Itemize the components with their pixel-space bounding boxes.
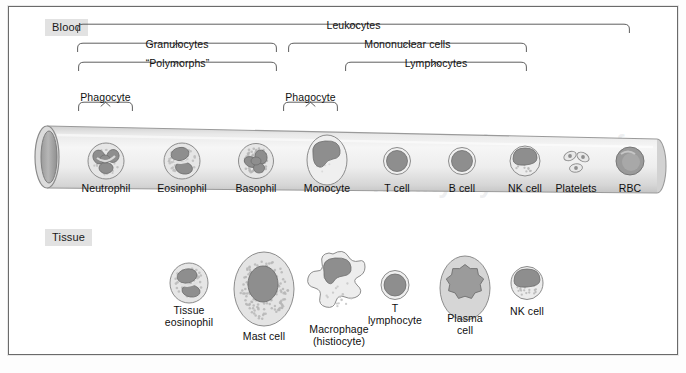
cell-nk-cell-tissue [511,267,543,300]
label-tissue-eosinophil: Tissue eosinophil [129,305,249,328]
label-macrophage: Macrophage (histiocyte) [279,324,399,347]
cell-tissue-eosinophil [170,263,208,303]
figure-root: …s and Organs ofnunity System Blood Tiss… [0,0,686,373]
cell-macrophage [308,251,365,307]
label-nk-cell-tissue: NK cell [467,306,587,318]
figure-frame: …s and Organs ofnunity System Blood Tiss… [8,6,678,355]
cell-t-lymphocyte [381,271,409,300]
